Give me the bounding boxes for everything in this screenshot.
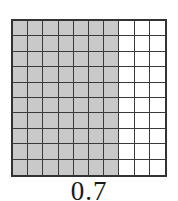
grid-cell-empty bbox=[150, 52, 165, 67]
grid-cell-shaded bbox=[89, 52, 104, 67]
grid-cell-shaded bbox=[13, 52, 28, 67]
grid-cell-shaded bbox=[59, 144, 74, 159]
decimal-grid bbox=[11, 19, 167, 177]
grid-cell-shaded bbox=[28, 129, 43, 144]
grid-cell-empty bbox=[135, 98, 150, 113]
grid-cell-shaded bbox=[89, 83, 104, 98]
grid-cell-shaded bbox=[43, 52, 58, 67]
grid-cell-shaded bbox=[43, 129, 58, 144]
grid-cell-shaded bbox=[28, 160, 43, 175]
grid-cell-shaded bbox=[59, 67, 74, 82]
grid-cell-shaded bbox=[74, 21, 89, 36]
grid-cell-shaded bbox=[59, 21, 74, 36]
grid-cell-shaded bbox=[59, 52, 74, 67]
grid-cell-shaded bbox=[74, 129, 89, 144]
grid-cell-shaded bbox=[104, 113, 119, 128]
grid-cell-empty bbox=[135, 52, 150, 67]
grid-cell-shaded bbox=[43, 160, 58, 175]
grid-cell-shaded bbox=[104, 21, 119, 36]
grid-cell-shaded bbox=[89, 36, 104, 51]
grid-cell-shaded bbox=[74, 160, 89, 175]
grid-cell-shaded bbox=[59, 83, 74, 98]
grid-cell-empty bbox=[150, 36, 165, 51]
grid-cell-shaded bbox=[74, 52, 89, 67]
grid-cell-shaded bbox=[43, 144, 58, 159]
grid-cell-shaded bbox=[89, 98, 104, 113]
grid-cell-empty bbox=[135, 67, 150, 82]
grid-container bbox=[11, 19, 167, 177]
grid-cell-shaded bbox=[104, 129, 119, 144]
grid-cell-empty bbox=[135, 36, 150, 51]
grid-cell-shaded bbox=[104, 144, 119, 159]
grid-cell-empty bbox=[119, 144, 134, 159]
grid-cell-empty bbox=[135, 83, 150, 98]
grid-cell-empty bbox=[150, 144, 165, 159]
grid-cell-empty bbox=[119, 36, 134, 51]
grid-cell-shaded bbox=[28, 144, 43, 159]
grid-cell-shaded bbox=[104, 160, 119, 175]
grid-cell-shaded bbox=[104, 36, 119, 51]
grid-cell-shaded bbox=[89, 144, 104, 159]
grid-cell-empty bbox=[119, 52, 134, 67]
grid-cell-shaded bbox=[104, 52, 119, 67]
grid-cell-shaded bbox=[13, 113, 28, 128]
grid-cell-empty bbox=[135, 21, 150, 36]
grid-cell-empty bbox=[135, 113, 150, 128]
grid-cell-shaded bbox=[43, 36, 58, 51]
grid-cell-shaded bbox=[74, 83, 89, 98]
grid-cell-shaded bbox=[59, 160, 74, 175]
grid-cell-shaded bbox=[74, 36, 89, 51]
grid-cell-shaded bbox=[89, 21, 104, 36]
grid-cell-shaded bbox=[28, 98, 43, 113]
grid-cell-empty bbox=[119, 21, 134, 36]
grid-cell-empty bbox=[150, 67, 165, 82]
grid-cell-empty bbox=[119, 83, 134, 98]
grid-cell-shaded bbox=[59, 98, 74, 113]
grid-cell-shaded bbox=[43, 113, 58, 128]
grid-cell-shaded bbox=[13, 160, 28, 175]
grid-value-label: 0.7 bbox=[0, 176, 178, 201]
grid-cell-empty bbox=[119, 160, 134, 175]
grid-cell-shaded bbox=[104, 98, 119, 113]
grid-cell-shaded bbox=[74, 67, 89, 82]
grid-cell-shaded bbox=[28, 21, 43, 36]
grid-cell-shaded bbox=[59, 36, 74, 51]
grid-cell-shaded bbox=[13, 83, 28, 98]
grid-cell-shaded bbox=[89, 129, 104, 144]
grid-cell-shaded bbox=[59, 129, 74, 144]
grid-cell-empty bbox=[150, 129, 165, 144]
grid-cell-shaded bbox=[13, 144, 28, 159]
grid-cell-shaded bbox=[43, 83, 58, 98]
grid-cell-empty bbox=[150, 21, 165, 36]
grid-cell-shaded bbox=[28, 52, 43, 67]
grid-cell-shaded bbox=[89, 113, 104, 128]
grid-cell-shaded bbox=[43, 67, 58, 82]
grid-cell-shaded bbox=[104, 83, 119, 98]
grid-cell-shaded bbox=[89, 160, 104, 175]
grid-cell-empty bbox=[119, 113, 134, 128]
grid-cell-shaded bbox=[74, 113, 89, 128]
decimal-grid-figure: 0.7 bbox=[0, 0, 178, 201]
grid-cell-shaded bbox=[104, 67, 119, 82]
grid-cell-empty bbox=[135, 160, 150, 175]
grid-cell-shaded bbox=[28, 67, 43, 82]
grid-cell-empty bbox=[150, 113, 165, 128]
grid-cell-shaded bbox=[13, 98, 28, 113]
grid-cell-empty bbox=[150, 83, 165, 98]
grid-cell-shaded bbox=[59, 113, 74, 128]
grid-cell-empty bbox=[119, 67, 134, 82]
grid-cell-empty bbox=[135, 129, 150, 144]
grid-cell-empty bbox=[135, 144, 150, 159]
grid-cell-empty bbox=[150, 98, 165, 113]
grid-cell-shaded bbox=[28, 113, 43, 128]
grid-cell-shaded bbox=[43, 98, 58, 113]
grid-cell-empty bbox=[150, 160, 165, 175]
grid-cell-shaded bbox=[13, 67, 28, 82]
grid-cell-shaded bbox=[43, 21, 58, 36]
grid-cell-shaded bbox=[13, 21, 28, 36]
grid-cell-shaded bbox=[74, 144, 89, 159]
grid-cell-shaded bbox=[28, 36, 43, 51]
grid-cell-shaded bbox=[13, 129, 28, 144]
grid-cell-shaded bbox=[89, 67, 104, 82]
grid-cell-shaded bbox=[74, 98, 89, 113]
